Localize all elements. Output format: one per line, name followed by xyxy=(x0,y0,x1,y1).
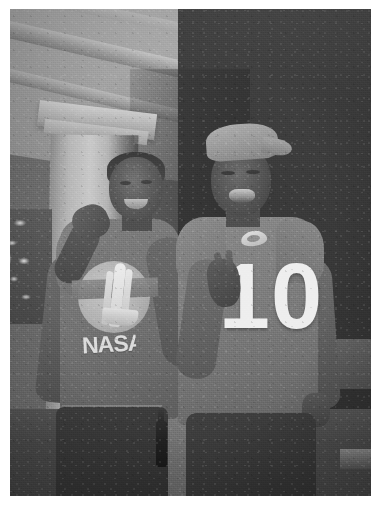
deck-object xyxy=(340,449,371,469)
bottle xyxy=(156,421,167,467)
person-right-shorts xyxy=(186,413,316,496)
person-right-eye-left xyxy=(221,171,235,175)
nasa-wordmark: NASA xyxy=(81,330,136,359)
person-left-eye-right xyxy=(141,180,152,184)
person-right-open-mouth xyxy=(229,189,255,203)
person-left-eye-left xyxy=(120,181,131,185)
photograph: NASA 10 xyxy=(10,9,371,496)
photo-print-frame: NASA 10 xyxy=(0,0,379,510)
person-left-face xyxy=(109,157,163,219)
person-left-pants xyxy=(56,407,168,496)
person-right-eye-right xyxy=(246,170,260,174)
